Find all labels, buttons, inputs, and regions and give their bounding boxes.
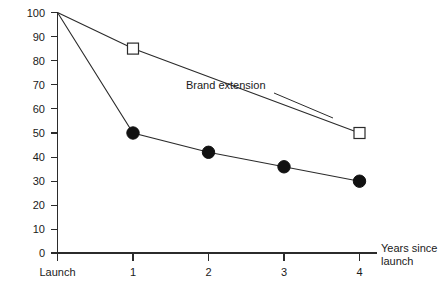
y-tick-label-90: 90 [33,31,45,43]
y-axis-ticks [51,13,58,254]
y-tick-label-30: 30 [33,175,45,187]
x-tick-label-3: 3 [281,266,287,278]
marker-brand-extension-year4 [354,128,365,139]
y-tick-label-70: 70 [33,79,45,91]
x-tick-label-2: 2 [205,266,211,278]
x-axis-title: Years since launch [381,242,437,267]
marker-new-brand-year1 [127,127,139,139]
y-tick-label-100: 100 [27,7,45,19]
line-chart: 100 90 80 70 60 50 40 30 20 10 0 Launch … [0,0,445,297]
x-axis-title-line1: Years since [381,242,437,254]
x-axis-tick-labels: Launch 1 2 3 4 [39,266,362,278]
y-tick-label-10: 10 [33,223,45,235]
x-axis-ticks [58,253,360,261]
x-tick-label-launch: Launch [39,266,75,278]
chart-container: 100 90 80 70 60 50 40 30 20 10 0 Launch … [0,0,445,297]
marker-new-brand-year2 [202,146,214,158]
annotation-brand-extension-leader [274,93,333,118]
y-tick-label-60: 60 [33,103,45,115]
y-tick-label-0: 0 [39,247,45,259]
series-brand-extension [58,13,366,139]
y-tick-label-40: 40 [33,151,45,163]
y-tick-label-50: 50 [33,127,45,139]
series-new-brand [58,13,366,188]
x-tick-label-1: 1 [130,266,136,278]
x-tick-label-4: 4 [356,266,362,278]
y-axis-tick-labels: 100 90 80 70 60 50 40 30 20 10 0 [27,7,45,260]
annotation-brand-extension-label: Brand extension [186,79,266,91]
marker-brand-extension-year1 [128,43,139,54]
y-tick-label-20: 20 [33,199,45,211]
annotation-brand-extension: Brand extension [186,79,333,118]
marker-new-brand-year4 [353,175,365,187]
marker-new-brand-year3 [278,161,290,173]
x-axis-title-line2: launch [381,255,413,267]
series-brand-extension-line [58,13,360,134]
y-tick-label-80: 80 [33,55,45,67]
